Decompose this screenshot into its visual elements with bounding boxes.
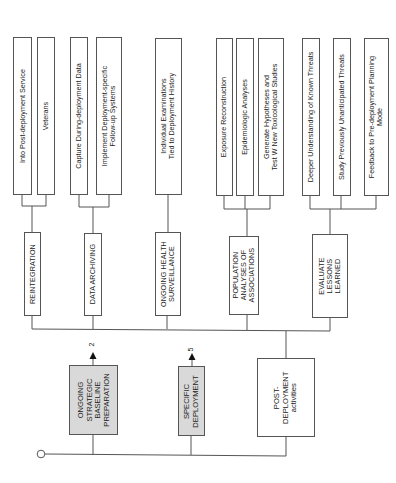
node-evaluate-lessons-learned: EVALUATELESSONSLEARNED bbox=[312, 234, 348, 318]
leaf-implement-follow-up-systems: Implement Deployment-specificFollow-up S… bbox=[96, 37, 122, 195]
leaf-veterans: Veterans bbox=[37, 37, 55, 195]
leaf-deeper-understanding: Deeper Understanding of Known Threats bbox=[302, 38, 320, 196]
node-post-deployment-activities: POST-DEPLOYMENTactivities bbox=[257, 358, 315, 437]
node-specific-deployment: SPECIFICDEPLOYMENT bbox=[178, 366, 205, 436]
node-label: PREPARATION bbox=[102, 373, 111, 426]
leaf-feedback-pre-deployment: Feedback to Pre-deployment PlanningMode bbox=[364, 38, 389, 196]
leaf-individual-examinations: Individual ExaminationsTied to Deploymen… bbox=[155, 38, 182, 195]
node-ongoing-strategic-baseline-preparation: ONGOINGSTRATEGICBASELINEPREPARATION bbox=[69, 365, 118, 435]
leaf-label: Epidemiologic Analyses bbox=[240, 79, 249, 155]
node-label: activities bbox=[290, 371, 299, 423]
leaf-label: Tied to Deployment History bbox=[169, 73, 177, 159]
node-population-analyses: POPULATIONANALYSES OFASSOCIATIONS bbox=[229, 236, 259, 315]
start-circle-icon bbox=[37, 450, 45, 458]
node-label: LEARNED bbox=[334, 257, 342, 294]
node-label: DEPLOYMENT bbox=[192, 375, 201, 427]
arrow-ref-label: 5 bbox=[187, 348, 194, 352]
leaf-label: Veterans bbox=[41, 102, 50, 130]
arrow-ref-label: 2 bbox=[88, 343, 95, 347]
node-label: DATA ARCHIVING bbox=[88, 244, 97, 305]
leaf-label: Exposure Reconstruction bbox=[219, 77, 228, 157]
leaf-study-unanticipated-threats: Study Previously Unanticipated Threats bbox=[333, 38, 351, 196]
leaf-epidemiologic-analyses: Epidemiologic Analyses bbox=[236, 38, 254, 196]
leaf-label: Test W New Toxicological Studies bbox=[271, 64, 279, 171]
leaf-exposure-reconstruction: Exposure Reconstruction bbox=[216, 38, 233, 196]
leaf-generate-hypotheses: Generate Hypotheses andTest W New Toxico… bbox=[258, 38, 284, 196]
leaf-label: Into Post-deployment Service bbox=[17, 69, 26, 163]
node-data-archiving: DATA ARCHIVING bbox=[84, 233, 102, 316]
leaf-label: Follow-up Systems bbox=[109, 66, 117, 166]
node-reintegration: REINTEGRATION bbox=[24, 232, 41, 316]
diagram-canvas: 2 5 Into Post-deployment Service Veteran… bbox=[0, 0, 396, 483]
leaf-label: Deeper Understanding of Known Threats bbox=[306, 52, 315, 183]
node-label: SURVEILLANCE bbox=[168, 241, 176, 307]
leaf-capture-during-deployment-data: Capture During-deployment Data bbox=[70, 37, 88, 195]
node-label: ASSOCIATIONS bbox=[248, 248, 256, 303]
leaf-label: Study Previously Unanticipated Threats bbox=[337, 54, 346, 180]
node-label: REINTEGRATION bbox=[27, 244, 36, 304]
node-ongoing-health-surveillance: ONGOING HEALTHSURVEILLANCE bbox=[155, 232, 181, 316]
leaf-into-post-deployment-service: Into Post-deployment Service bbox=[13, 37, 32, 195]
arrow-up-icon bbox=[189, 353, 196, 360]
arrow-up-icon bbox=[90, 352, 97, 359]
leaf-label: Mode bbox=[377, 56, 385, 178]
leaf-label: Capture During-deployment Data bbox=[74, 63, 83, 168]
